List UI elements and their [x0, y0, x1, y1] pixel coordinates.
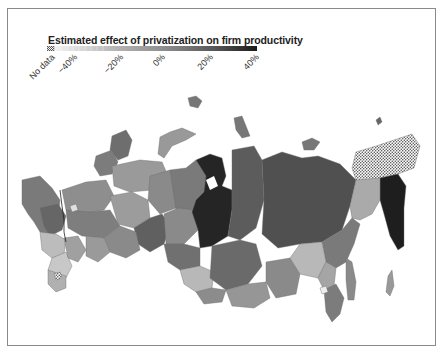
- region-franz-josef: [188, 96, 202, 108]
- russia-choropleth-map: [0, 0, 444, 356]
- region-sakhalin: [346, 258, 356, 300]
- region-severnaya-zemlya: [234, 116, 250, 138]
- region-omsk-tomsk: [164, 244, 200, 270]
- region-novaya-zemlya: [158, 128, 196, 158]
- region-new-siberian-isl: [302, 138, 320, 150]
- region-kamchatka: [380, 174, 406, 250]
- region-volga-1: [62, 180, 114, 214]
- region-irkutsk: [210, 240, 262, 290]
- region-chukotka: [352, 134, 420, 182]
- region-wrangel: [376, 117, 382, 125]
- region-evenk: [228, 146, 264, 240]
- region-kurils: [386, 270, 394, 296]
- region-novosibirsk: [180, 266, 214, 292]
